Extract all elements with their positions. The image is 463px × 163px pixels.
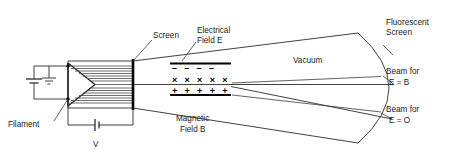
label-fluorescent-screen-line1: Fluorescent <box>386 18 430 27</box>
leader-electrical-field <box>182 42 196 61</box>
label-fluorescent-screen-line2: Screen <box>386 28 412 37</box>
label-beam-o-line2: E = O <box>389 116 410 125</box>
vacuum-cone <box>133 33 358 143</box>
beam-e-equals-o <box>231 87 392 120</box>
label-magnetic-field-line2: Field B <box>180 125 206 134</box>
magnetic-field-into-page-markers: × × × × × <box>172 75 230 85</box>
label-beam-o-line1: Beam for <box>386 105 419 114</box>
crt-diagram: – – – – × × × × × + + + + + <box>0 0 463 163</box>
electron-gun <box>68 63 133 106</box>
negative-charge-signs: – – – – <box>172 63 216 73</box>
label-electrical-field-line2: Field E <box>197 36 223 45</box>
label-beam-b-line1: Beam for <box>386 67 419 76</box>
leader-filament <box>54 99 68 121</box>
fluorescent-screen-arc <box>358 33 389 143</box>
label-electrical-field-line1: Electrical <box>197 26 230 35</box>
cathode-wedge <box>68 63 95 106</box>
leader-magnetic-to-beam-b <box>232 77 381 84</box>
label-magnetic-field-line1: Magnetic <box>176 114 209 123</box>
junction-dot-top <box>66 64 70 68</box>
crt-diagram-canvas: – – – – × × × × × + + + + + <box>0 0 463 163</box>
positive-charge-signs: + + + + + <box>172 86 230 96</box>
label-beam-b-line2: E = B <box>389 78 410 87</box>
label-vacuum: Vacuum <box>293 56 323 65</box>
label-screen: Screen <box>153 31 179 40</box>
label-filament: Filament <box>8 120 40 129</box>
cone-bottom-edge <box>133 108 358 143</box>
leader-screen <box>133 40 152 61</box>
label-voltage: V <box>93 140 99 149</box>
leader-fluorescent-screen <box>383 45 393 55</box>
leader-magnetic-to-beam-o <box>232 95 381 112</box>
filament-circuit <box>26 66 68 99</box>
